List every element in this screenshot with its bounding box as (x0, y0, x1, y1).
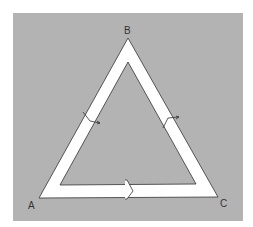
vertex-label-b: B (124, 25, 131, 36)
cycle-diagram: B A C (0, 0, 253, 227)
vertex-label-a: A (28, 200, 35, 211)
vertex-label-c: C (220, 198, 227, 209)
